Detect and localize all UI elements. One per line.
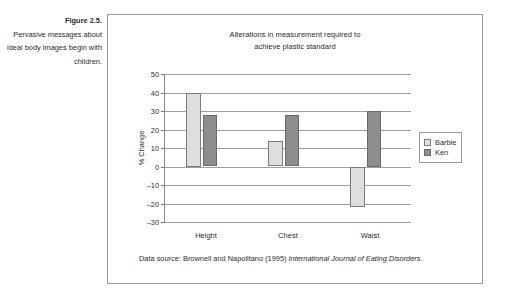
chart-title-line-2: achieve plastic standard <box>108 41 482 53</box>
chart-legend: BarbieKen <box>419 132 462 163</box>
bar-ken-chest <box>285 115 299 167</box>
legend-item-barbie: Barbie <box>424 138 456 147</box>
legend-swatch-ken-icon <box>424 149 431 156</box>
legend-swatch-barbie-icon <box>424 139 431 146</box>
legend-label: Barbie <box>435 138 456 147</box>
y-tick-label: 10 <box>151 144 159 153</box>
legend-item-ken: Ken <box>424 148 456 157</box>
source-suffix: . <box>420 254 422 263</box>
y-tick-label: 20 <box>151 125 159 134</box>
bar-barbie-chest <box>268 141 282 167</box>
y-tick-label: –10 <box>147 181 159 190</box>
y-tick-label: –30 <box>147 218 159 227</box>
category-label-waist: Waist <box>329 231 411 240</box>
figure-caption: Figure 2.5. Pervasive messages about ide… <box>6 14 102 68</box>
y-tick-label: 30 <box>151 107 159 116</box>
y-tick-label: 50 <box>151 70 159 79</box>
source-note: Data source: Brownell and Napolitano (19… <box>139 254 422 263</box>
source-prefix: Data source: Brownell and Napolitano (19… <box>139 254 289 263</box>
bar-barbie-waist <box>350 167 364 208</box>
bar-group-waist: Waist <box>329 74 411 222</box>
bar-group-height: Height <box>165 74 247 222</box>
category-label-height: Height <box>165 231 247 240</box>
chart-title: Alterations in measurement required to a… <box>108 29 482 52</box>
figure-caption-text: Pervasive messages about ideal body imag… <box>6 28 102 69</box>
gridline <box>165 222 411 223</box>
y-axis-title: % Change <box>137 131 146 166</box>
figure-number: Figure 2.5. <box>6 14 102 28</box>
y-tick-mark <box>161 222 165 223</box>
bar-group-chest: Chest <box>247 74 329 222</box>
chart-title-line-1: Alterations in measurement required to <box>108 29 482 41</box>
y-tick-label: 0 <box>155 162 159 171</box>
bar-barbie-height <box>186 93 200 167</box>
figure-box: Alterations in measurement required to a… <box>107 14 483 284</box>
plot-area: 50403020100–10–20–30 HeightChestWaist <box>164 74 411 222</box>
source-journal-name: International Journal of Eating Disorder… <box>289 254 421 263</box>
category-label-chest: Chest <box>247 231 329 240</box>
legend-label: Ken <box>435 148 448 157</box>
y-tick-label: –20 <box>147 199 159 208</box>
y-tick-label: 40 <box>151 88 159 97</box>
bar-ken-waist <box>367 111 381 167</box>
bar-ken-height <box>203 115 217 167</box>
plot-wrapper: % Change 50403020100–10–20–30 HeightChes… <box>164 74 411 222</box>
bars-layer: HeightChestWaist <box>165 74 411 222</box>
